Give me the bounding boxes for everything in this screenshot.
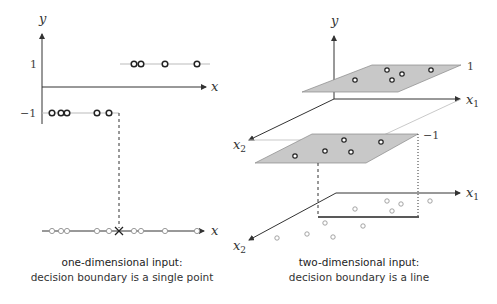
data-point [323,149,327,153]
data-point [58,228,63,233]
data-point [429,68,433,72]
data-point [162,61,168,67]
upper-plane-label: 1 [467,60,474,73]
data-point [305,232,309,236]
data-point [353,207,357,211]
data-point [138,61,144,67]
data-point [385,199,389,203]
data-point [131,228,136,233]
left-caption-subtitle: decision boundary is a single point [22,270,222,285]
data-point [385,68,389,72]
data-point [379,140,383,144]
data-point [138,228,143,233]
data-point [64,228,69,233]
y-axis-label: y [38,11,47,26]
x2-axis-bottom-label: x2 [233,238,246,255]
tick-label-1: 1 [30,58,37,71]
data-point [64,110,70,116]
data-point [58,110,64,116]
right-caption-title: two-dimensional input: [259,255,459,270]
data-point [399,202,403,206]
data-point [194,228,199,233]
x2-axis-top-label: x2 [233,137,246,154]
right-panel: y 1 x1 x2 −1 x1 x2 [233,13,479,255]
data-point [293,154,297,158]
data-point [400,72,404,76]
upper-plane [302,65,461,92]
right-caption: two-dimensional input: decision boundary… [259,255,459,285]
data-point [331,235,335,239]
data-point [94,228,99,233]
data-point [349,150,353,154]
data-point [94,110,100,116]
y-axis-3d-label: y [330,13,339,28]
x-axis-top-label: x [211,79,219,94]
tick-label-neg1: −1 [20,107,36,120]
right-caption-subtitle: decision boundary is a line [259,270,459,285]
x1-axis-bottom-label: x1 [466,185,479,202]
floor-points [275,199,432,240]
lower-plane [255,134,418,163]
data-point [106,110,112,116]
left-panel: y x 1 −1 x [20,11,219,238]
lower-plane-label: −1 [423,129,439,142]
x1-axis-top-label: x1 [466,92,479,109]
data-point [131,61,137,67]
left-caption-title: one-dimensional input: [22,255,222,270]
data-point [323,221,327,225]
data-point [194,61,200,67]
data-point [342,138,346,142]
data-point [428,199,432,203]
data-point [353,78,357,82]
data-point [49,228,54,233]
data-point [390,78,394,82]
data-point [361,224,365,228]
data-point [49,110,55,116]
left-caption: one-dimensional input: decision boundary… [22,255,222,285]
data-point [275,236,279,240]
data-point [106,228,111,233]
data-point [390,209,394,213]
x-axis-bottom-label: x [211,223,219,238]
data-point [162,228,167,233]
